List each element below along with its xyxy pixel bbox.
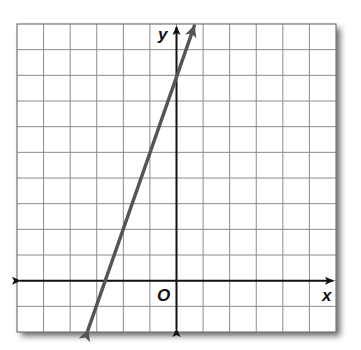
y-axis-label: y xyxy=(157,25,169,44)
origin-label: O xyxy=(157,286,170,305)
x-axis-label: x xyxy=(321,286,333,305)
coordinate-graph: y x O xyxy=(0,0,361,350)
